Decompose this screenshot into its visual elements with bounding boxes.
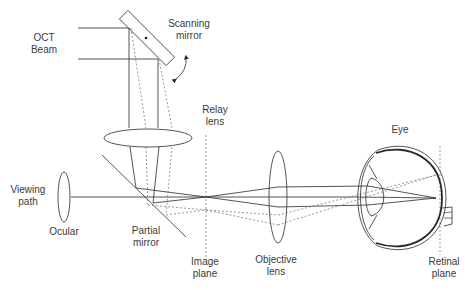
ray-axis-eye [358,197,436,198]
oct-optics-diagram: OCT Beam Scanning mirror Relay lens Eye … [0,0,465,290]
relay-lens [104,129,192,147]
ray-dashed-d3 [278,175,436,225]
label-image-plane: Image plane [188,256,222,280]
label-retinal-plane: Retinal plane [424,256,464,280]
ray-solid-a4 [368,186,436,198]
curved-double-arrow-icon [175,57,186,80]
mirror-pivot-dot [145,37,148,40]
diagram-canvas [0,0,465,290]
label-oct-beam: OCT Beam [26,32,62,56]
label-viewing-path: Viewing path [8,184,48,208]
label-eye: Eye [388,124,412,136]
ray-dashed-d1 [166,210,206,215]
ray-dashed-left-lower [146,147,148,205]
label-partial-mirror: Partial mirror [126,225,166,249]
label-scanning-mirror: Scanning mirror [164,18,214,42]
ray-dashed-c2 [206,210,278,215]
ray-solid-b2 [206,197,278,207]
ray-solid-a2 [206,187,278,197]
ray-dashed-right-lower [166,147,172,215]
ray-dashed-c3 [278,175,436,215]
ocular-lens [58,172,70,222]
ray-solid-a1 [136,188,206,197]
label-ocular: Ocular [46,226,82,238]
ray-dashed-right-upper [159,59,172,128]
label-objective-lens: Objective lens [251,254,301,278]
ray-solid-b1 [153,197,206,203]
ray-solid-a3 [278,186,368,187]
beam-solid-left-lower [130,147,136,188]
ray-solid-b3 [278,205,368,207]
ray-solid-b4 [368,198,436,205]
label-relay-lens: Relay lens [198,104,232,128]
beam-solid-right-lower [153,147,159,203]
ray-dashed-c1 [148,205,206,210]
